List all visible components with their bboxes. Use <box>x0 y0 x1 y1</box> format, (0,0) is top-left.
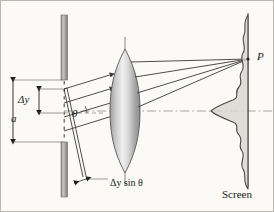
slit-width-label: a <box>11 113 17 124</box>
path-difference-label: Δy sin θ <box>110 178 143 188</box>
single-slit-diffraction-figure: Δy a θ Δy sin θ P Screen <box>0 0 274 212</box>
converging-ray-icon <box>131 59 248 107</box>
path-difference-construction <box>64 88 108 182</box>
delta-y-label: Δy <box>18 94 29 105</box>
diffraction-intensity-curve-icon <box>211 15 248 189</box>
screen-label: Screen <box>222 189 252 200</box>
delta-y-dimension <box>39 89 63 113</box>
slit-width-dimension <box>13 80 63 142</box>
theta-angle-marker <box>64 106 105 113</box>
converging-lens-icon <box>110 37 140 185</box>
slit-barrier-icon <box>61 15 68 197</box>
point-p-label: P <box>257 51 264 62</box>
theta-label: θ <box>72 108 77 119</box>
point-p-marker <box>246 57 249 60</box>
